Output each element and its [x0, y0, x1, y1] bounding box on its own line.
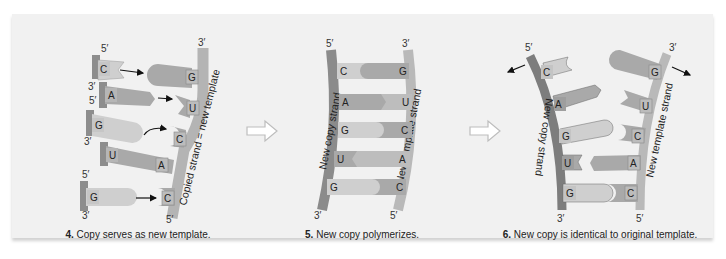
svg-text:5′: 5′ — [326, 38, 334, 49]
caption-step-6: 6. New copy is identical to original tem… — [503, 229, 698, 240]
svg-text:3′: 3′ — [669, 42, 677, 53]
caption-step-number: 6. — [503, 229, 511, 240]
svg-text:3′: 3′ — [84, 136, 92, 147]
rna-replication-diagram: 3′ 5′ Copied strand = new template G U C… — [0, 0, 726, 259]
svg-text:G: G — [341, 125, 349, 136]
svg-text:C: C — [100, 64, 107, 75]
svg-text:A: A — [630, 158, 637, 169]
svg-text:5′: 5′ — [636, 213, 644, 224]
copy-base-G: G — [559, 120, 613, 144]
svg-text:U: U — [402, 97, 409, 108]
caption-text: New copy is identical to original templa… — [514, 229, 697, 240]
panel-step-6: 5′ 3′ 3′ 5′ New copy strand New template… — [508, 42, 690, 224]
svg-text:G: G — [188, 72, 196, 83]
svg-text:C: C — [627, 188, 634, 199]
svg-text:C: C — [396, 182, 403, 193]
caption-step-4: 4. Copy serves as new template. — [65, 229, 210, 240]
svg-text:5′: 5′ — [390, 210, 398, 221]
base-pair-A-U: A U — [339, 94, 412, 110]
template-base-C: C — [618, 124, 646, 143]
caption-text: Copy serves as new template. — [77, 229, 211, 240]
svg-text:C: C — [164, 193, 171, 204]
svg-text:U: U — [564, 158, 571, 169]
template-base-G: G — [609, 50, 661, 80]
svg-text:C: C — [401, 125, 408, 136]
svg-text:G: G — [651, 67, 659, 78]
svg-text:5′: 5′ — [82, 169, 90, 180]
svg-text:G: G — [566, 188, 574, 199]
svg-text:G: G — [562, 131, 570, 142]
svg-text:A: A — [555, 99, 562, 110]
svg-text:G: G — [399, 66, 407, 77]
svg-text:C: C — [634, 131, 641, 142]
svg-text:U: U — [642, 101, 649, 112]
svg-text:U: U — [189, 103, 196, 114]
base-pair-C-G: C G — [337, 63, 409, 79]
svg-text:3′: 3′ — [557, 213, 565, 224]
copy-base-A: A — [553, 85, 601, 111]
svg-text:5′: 5′ — [89, 95, 97, 106]
base-pair-U-A: U A — [334, 151, 410, 167]
panel-step-5: 5′ 3′ 3′ 5′ New copy strand New template… — [314, 38, 423, 221]
template-base-C-bottom: C — [158, 188, 175, 206]
svg-text:3′: 3′ — [82, 210, 90, 221]
base-pair-G-C: G C — [338, 122, 412, 138]
template-base-A: A — [590, 155, 641, 171]
step-arrow-4-to-5 — [247, 121, 277, 141]
svg-text:G: G — [95, 120, 103, 131]
svg-text:3′: 3′ — [88, 81, 96, 92]
svg-text:A: A — [108, 90, 115, 101]
template-base-U: U — [175, 95, 199, 118]
svg-text:U: U — [337, 154, 344, 165]
free-nucleotide-U: U A — [100, 142, 174, 174]
svg-text:3′: 3′ — [314, 210, 322, 221]
separation-arrow-right — [672, 67, 690, 75]
copy-base-C: C — [541, 57, 572, 79]
free-nucleotide-G-bottom: G 5′ 3′ — [80, 169, 156, 221]
copy-base-U: U — [562, 155, 582, 170]
end-label-3prime: 3′ — [198, 37, 206, 48]
end-label-5prime: 5′ — [166, 214, 174, 225]
svg-text:G: G — [90, 192, 98, 203]
svg-text:A: A — [342, 97, 349, 108]
base-pair-G-C-bottom: G C — [327, 179, 406, 195]
svg-text:C: C — [543, 67, 550, 78]
template-base-G: G — [147, 64, 198, 88]
svg-text:C: C — [176, 134, 183, 145]
step-arrow-5-to-6 — [470, 121, 500, 141]
caption-step-number: 5. — [305, 229, 313, 240]
caption-step-5: 5. New copy polymerizes. — [305, 229, 419, 240]
caption-text: New copy polymerizes. — [316, 229, 419, 240]
svg-text:G: G — [330, 182, 338, 193]
svg-text:A: A — [399, 154, 406, 165]
template-base-U: U — [620, 90, 652, 113]
svg-text:5′: 5′ — [101, 43, 109, 54]
svg-text:3′: 3′ — [402, 38, 410, 49]
free-nucleotide-C: C 5′ — [92, 43, 143, 80]
copy-base-G-bottom: G — [563, 184, 613, 202]
svg-text:C: C — [340, 66, 347, 77]
template-base-C: C — [170, 126, 186, 148]
svg-text:U: U — [109, 150, 116, 161]
separation-arrow-left — [508, 65, 525, 72]
svg-text:A: A — [158, 160, 165, 171]
panel-step-4: 3′ 5′ Copied strand = new template G U C… — [80, 37, 222, 225]
svg-text:5′: 5′ — [525, 42, 533, 53]
caption-step-number: 4. — [65, 229, 73, 240]
free-nucleotide-G: G — [86, 110, 166, 143]
